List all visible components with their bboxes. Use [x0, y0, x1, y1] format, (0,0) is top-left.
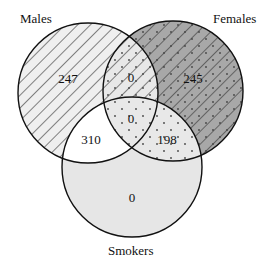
females-label: Females	[213, 11, 256, 26]
venn-diagram: Males Females Smokers 247 245 0 0 310 19…	[0, 0, 270, 269]
region-females-smokers: 198	[157, 132, 177, 147]
region-smokers-only: 0	[129, 190, 136, 205]
region-males-females: 0	[128, 70, 135, 85]
region-males-smokers: 310	[81, 132, 101, 147]
smokers-label: Smokers	[108, 243, 154, 258]
region-females-only: 245	[183, 71, 203, 86]
males-label: Males	[20, 11, 52, 26]
region-males-only: 247	[58, 71, 78, 86]
region-all-three: 0	[128, 111, 135, 126]
